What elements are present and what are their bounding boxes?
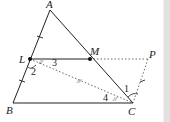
angle-arc-1 <box>128 93 138 97</box>
label-L: L <box>18 53 25 65</box>
angle-label-2: 2 <box>31 66 36 77</box>
angle-label-1: 1 <box>124 83 129 94</box>
segment-PC-dotted <box>133 59 148 103</box>
point-M <box>88 57 92 61</box>
angle-label-4: 4 <box>103 92 108 103</box>
equal-length-mark-LC: // <box>76 77 82 85</box>
segment-LC-dotted <box>30 59 133 103</box>
label-B: B <box>6 104 13 116</box>
label-M: M <box>89 45 100 57</box>
tick-mark-CP <box>140 80 145 82</box>
point-L <box>28 57 32 61</box>
angle-label-3: 3 <box>52 57 57 68</box>
label-P: P <box>148 48 156 60</box>
label-C: C <box>128 105 136 117</box>
label-A: A <box>45 0 53 10</box>
geometry-figure: A L M P B C 1 2 3 4 // // // <box>0 0 170 122</box>
right-edge-strip <box>163 0 170 122</box>
